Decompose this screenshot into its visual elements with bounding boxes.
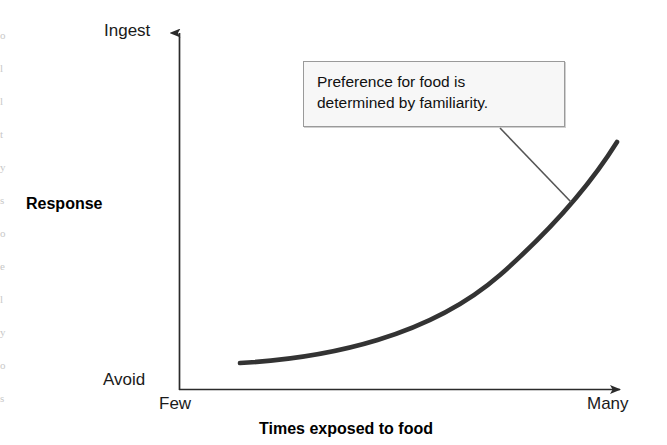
x-axis-right-label: Many	[587, 395, 629, 412]
page-edge-fragment: o	[0, 30, 6, 41]
page-edge-fragment: l	[0, 96, 3, 107]
page-edge-fragment: t	[0, 129, 3, 140]
page-edge-fragment: l	[0, 63, 3, 74]
page-edge-fragment: e	[0, 261, 5, 272]
response-exposure-figure: Ingest Avoid Few Many Response Times exp…	[0, 0, 667, 445]
callout-text: Preference for food is determined by fam…	[317, 71, 488, 113]
y-axis-bottom-label: Avoid	[103, 371, 145, 388]
page-edge-fragment: s	[0, 195, 4, 206]
response-curve	[240, 142, 617, 363]
page-edge-fragment: y	[0, 162, 6, 173]
x-axis-left-label: Few	[159, 395, 191, 412]
page-edge-fragment: l	[0, 294, 3, 305]
callout-box: Preference for food is determined by fam…	[303, 61, 565, 127]
page-edge-fragment: y	[0, 327, 6, 338]
page-edge-fragment: s	[0, 393, 4, 404]
callout-leader-line	[500, 128, 571, 202]
y-axis-top-label: Ingest	[104, 22, 150, 39]
x-axis-title: Times exposed to food	[259, 421, 433, 437]
y-axis-title: Response	[26, 196, 102, 212]
page-edge-fragment: o	[0, 360, 6, 371]
page-edge-fragment: o	[0, 228, 6, 239]
